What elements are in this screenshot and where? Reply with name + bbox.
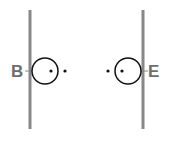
left-inner-dot	[49, 69, 52, 72]
left-outer-dot	[63, 69, 66, 72]
label-e: E	[148, 63, 159, 80]
right-vertical-bar	[142, 10, 145, 129]
right-outer-dot	[106, 69, 109, 72]
label-b: B	[11, 63, 23, 80]
right-circle	[115, 58, 141, 84]
left-vertical-bar	[29, 10, 32, 129]
right-inner-dot	[120, 69, 123, 72]
diagram-canvas	[0, 0, 170, 141]
left-circle	[32, 58, 58, 84]
